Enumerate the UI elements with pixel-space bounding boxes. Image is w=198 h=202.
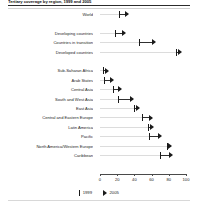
row-gridline [100,33,115,34]
x-axis-tick [186,174,187,176]
marker-2005 [149,115,153,121]
legend-entry[interactable]: 1999 [79,190,92,196]
marker-1999 [118,96,119,103]
x-axis-tick [152,174,153,176]
row-label: Developed countries [0,48,93,57]
marker-1999 [176,49,177,56]
row-gridline [100,14,119,15]
chart-row: Sub-Saharan Africa [0,66,198,75]
chart-row: South and West Asia [0,95,198,104]
x-axis-tick [134,174,135,176]
row-gridline [100,52,176,53]
marker-2005 [136,105,140,111]
row-label: Countries in transition [0,38,93,47]
x-axis-tick-label: 60 [144,177,160,183]
chart-row: Central Asia [0,85,198,94]
marker-1999 [142,114,143,121]
row-label: Developing countries [0,29,93,38]
marker-2005 [169,152,173,158]
row-label: World [0,10,93,19]
row-label: North America/Western Europe [0,142,93,151]
chart-row: North America/Western Europe [0,142,198,151]
row-gridline [100,42,139,43]
row-label: Latin America [0,123,93,132]
row-gridline [100,89,113,90]
title-divider [8,5,190,6]
x-axis-tick [117,174,118,176]
chart-row: Arab States [0,76,198,85]
row-label: Pacific [0,132,93,141]
marker-2005 [178,49,182,55]
plot-area: WorldDeveloping countriesCountries in tr… [0,10,198,176]
marker-2005 [130,96,134,102]
chart-row: Developed countries [0,48,198,57]
x-axis-tick [100,174,101,176]
marker-1999 [139,39,140,46]
x-axis-tick-label: 100 [178,177,194,183]
x-axis-tick [169,174,170,176]
chart-legend: 19992005 [0,188,198,198]
x-axis-tick-label: 0 [92,177,108,183]
row-gridline [100,117,142,118]
bottom-divider [8,200,190,201]
marker-2005 [105,68,109,74]
row-gridline [100,146,167,147]
row-label: South and West Asia [0,95,93,104]
marker-1999 [113,86,114,93]
row-gridline [100,155,160,156]
marker-2005 [110,77,114,83]
marker-1999 [115,30,116,37]
chart-row: World [0,10,198,19]
marker-1999 [119,11,120,18]
row-gridline [100,99,118,100]
chart-row: Pacific [0,132,198,141]
marker-2005 [168,143,172,149]
x-axis-line [100,174,186,175]
marker-1999 [160,152,161,159]
chart-row: Latin America [0,123,198,132]
marker-2005 [118,86,122,92]
legend-entry[interactable]: 2005 [103,190,119,196]
chart-row: Central and Eastern Europe [0,113,198,122]
row-label: Sub-Saharan Africa [0,66,93,75]
legend-marker-bar-icon [79,190,80,196]
row-label: East Asia [0,104,93,113]
marker-2005 [152,39,156,45]
chart-row: Developing countries [0,29,198,38]
title-divider-secondary [8,8,190,9]
row-label: Central Asia [0,85,93,94]
marker-1999 [149,133,150,140]
legend-label: 2005 [110,190,119,196]
row-gridline [100,108,134,109]
chart-row: Countries in transition [0,38,198,47]
legend-label: 1999 [83,190,92,196]
marker-1999 [103,67,104,74]
row-label: Caribbean [0,151,93,160]
row-label: Arab States [0,76,93,85]
x-axis-tick-label: 40 [126,177,142,183]
chart-row: East Asia [0,104,198,113]
marker-2005 [125,11,129,17]
marker-2005 [122,30,126,36]
legend-marker-arrow-icon [103,190,107,196]
row-gridline [100,136,149,137]
chart-title: Tertiary coverage by region, 1999 and 20… [8,0,190,4]
marker-2005 [150,124,154,130]
row-gridline [100,127,148,128]
chart-row: Caribbean [0,151,198,160]
x-axis-tick-label: 20 [109,177,125,183]
marker-2005 [158,133,162,139]
x-axis-tick-label: 80 [161,177,177,183]
marker-1999 [148,124,149,131]
chart-row-spacer [0,57,198,66]
row-label: Central and Eastern Europe [0,113,93,122]
marker-1999 [104,77,105,84]
chart-row-spacer [0,19,198,28]
